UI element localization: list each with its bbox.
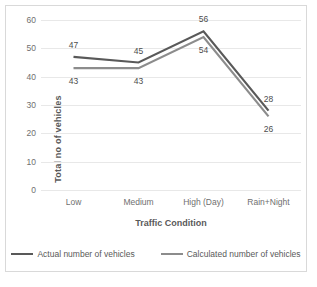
y-axis-tick-label: 30 — [27, 101, 36, 110]
x-axis-tick-label: Medium — [123, 198, 153, 207]
data-label: 56 — [199, 15, 208, 24]
legend-item-0[interactable]: Actual number of vehicles — [11, 249, 134, 259]
x-axis-tick-label: High (Day) — [183, 198, 224, 207]
legend-label: Calculated number of vehicles — [187, 249, 301, 259]
series-lines — [41, 20, 301, 190]
data-label: 28 — [264, 94, 273, 103]
y-axis-tick-label: 20 — [27, 129, 36, 138]
legend-item-1[interactable]: Calculated number of vehicles — [161, 249, 301, 259]
x-axis-tick-label: Low — [66, 198, 82, 207]
y-axis-tick-label: 40 — [27, 72, 36, 81]
x-axis-tick-label: Rain+Night — [247, 198, 289, 207]
data-label: 43 — [69, 77, 78, 86]
legend-line-icon — [11, 253, 33, 255]
data-label: 47 — [69, 41, 78, 50]
x-axis-title: Traffic Condition — [41, 218, 301, 228]
legend-line-icon — [161, 253, 183, 255]
y-axis-tick-label: 50 — [27, 44, 36, 53]
legend-label: Actual number of vehicles — [37, 249, 134, 259]
y-axis-tick-label: 10 — [27, 157, 36, 166]
y-axis-tick-label: 60 — [27, 16, 36, 25]
data-label: 54 — [199, 46, 208, 55]
plot-area: 0102030405060 LowMediumHigh (Day)Rain+Ni… — [41, 20, 301, 190]
chart-container: Total no of vehicles 0102030405060 LowMe… — [5, 5, 307, 272]
data-label: 26 — [264, 125, 273, 134]
data-label: 45 — [134, 46, 143, 55]
gridline — [41, 190, 301, 191]
series-line-0 — [74, 31, 269, 110]
chart-legend: Actual number of vehiclesCalculated numb… — [6, 249, 306, 259]
data-label: 43 — [134, 77, 143, 86]
y-axis-tick-label: 0 — [31, 186, 36, 195]
